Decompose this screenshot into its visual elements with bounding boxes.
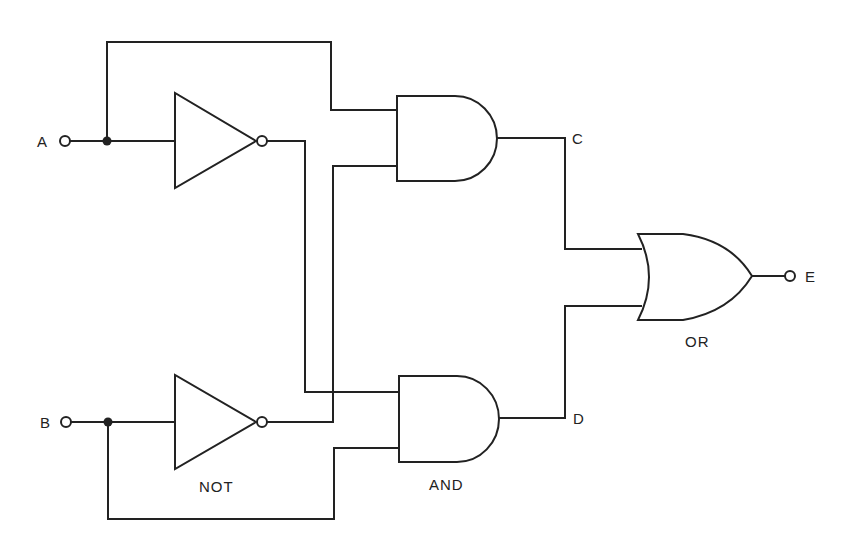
wire-notb-to-and1 bbox=[267, 166, 397, 422]
logic-circuit-diagram: A B C D E NOT AND OR bbox=[0, 0, 857, 545]
input-label-a: A bbox=[37, 134, 48, 149]
wire-c-to-or bbox=[497, 138, 642, 249]
input-a-terminal bbox=[60, 136, 70, 146]
input-b-terminal bbox=[61, 417, 71, 427]
wire-a-to-and1 bbox=[107, 42, 397, 141]
not-gate-2 bbox=[175, 375, 267, 469]
not-gate-1 bbox=[175, 93, 267, 188]
output-label-e: E bbox=[805, 269, 816, 284]
input-label-b: B bbox=[40, 415, 51, 430]
and-gate-2 bbox=[399, 376, 499, 462]
circuit-svg bbox=[0, 0, 857, 545]
not2-bubble bbox=[257, 417, 267, 427]
gate-label-and: AND bbox=[429, 477, 464, 492]
node-label-c: C bbox=[572, 131, 584, 146]
output-e-terminal bbox=[785, 271, 795, 281]
not1-bubble bbox=[257, 136, 267, 146]
or-gate bbox=[638, 234, 752, 320]
and-gate-1 bbox=[397, 96, 497, 181]
gate-label-or: OR bbox=[685, 334, 710, 349]
gate-label-not: NOT bbox=[199, 479, 234, 494]
wire-d-to-or bbox=[499, 306, 642, 418]
wire-b-to-and2 bbox=[108, 422, 399, 519]
node-label-d: D bbox=[573, 411, 585, 426]
